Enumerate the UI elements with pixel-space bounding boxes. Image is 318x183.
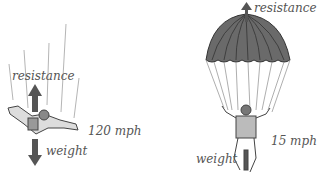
resistance-arrow-icon bbox=[28, 84, 42, 112]
parachute-resistance-label: resistance bbox=[254, 1, 317, 15]
freefall-weight-label: weight bbox=[46, 144, 87, 158]
freefall-speed-label: 120 mph bbox=[88, 124, 142, 138]
diagram-freefall-vs-parachute: resistance 120 mph weight resistance 15 … bbox=[0, 0, 318, 183]
skydiver-icon bbox=[8, 106, 78, 134]
parachute-weight-label: weight bbox=[196, 152, 237, 166]
parachute-speed-label: 15 mph bbox=[271, 134, 317, 148]
freefall-resistance-label: resistance bbox=[12, 69, 75, 83]
weight-arrow-icon bbox=[28, 139, 42, 166]
suspension-lines bbox=[206, 60, 290, 112]
